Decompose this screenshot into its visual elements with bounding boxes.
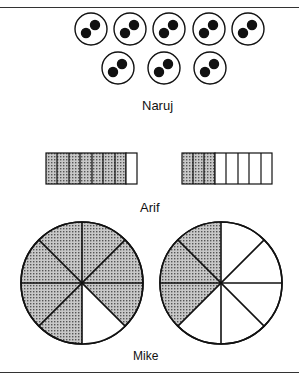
counter-group-icon	[232, 13, 264, 45]
counter-group-icon	[153, 13, 185, 45]
arif-bar-left	[46, 153, 137, 184]
fraction-figure	[0, 0, 299, 380]
bottom-rule	[0, 372, 299, 373]
mike-pie-left	[21, 222, 143, 344]
counter-group-icon	[102, 52, 134, 84]
label-mike: Mike	[133, 349, 158, 363]
arif-bar-right	[182, 153, 272, 184]
counter-group-icon	[75, 13, 107, 45]
label-naruj: Naruj	[142, 98, 173, 113]
counter-group-icon	[148, 52, 180, 84]
mike-pie-right	[160, 222, 282, 344]
counter-group-icon	[193, 13, 225, 45]
naruj-counters	[75, 13, 264, 84]
label-arif: Arif	[140, 200, 160, 215]
counter-group-icon	[194, 52, 226, 84]
counter-group-icon	[114, 13, 146, 45]
